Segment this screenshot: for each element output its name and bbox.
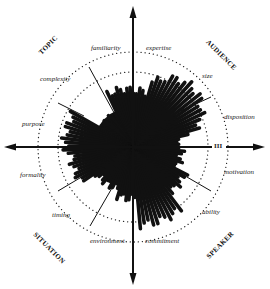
axis-marker-iii: III bbox=[214, 143, 222, 150]
label-motivation: motivation bbox=[224, 169, 254, 176]
label-commitment: commitment bbox=[145, 238, 179, 245]
label-complexity: complexity bbox=[40, 76, 70, 83]
label-familiarity: familiarity bbox=[91, 45, 121, 52]
label-environment: environment bbox=[90, 238, 125, 245]
label-size: size bbox=[202, 73, 213, 80]
label-expertise: expertise bbox=[146, 45, 171, 52]
arrow-left-icon bbox=[4, 144, 16, 151]
label-purpose: purpose bbox=[22, 121, 45, 128]
label-formality: formality bbox=[20, 172, 46, 179]
arrow-down-icon bbox=[130, 273, 137, 285]
divider-timing-environment bbox=[90, 188, 112, 226]
divider-purpose-complexity bbox=[58, 103, 84, 116]
label-disposition: disposition bbox=[224, 114, 255, 121]
label-timing: timing bbox=[52, 212, 70, 219]
arrow-right-icon bbox=[253, 144, 265, 151]
label-ability: ability bbox=[202, 209, 220, 216]
arrow-up-icon bbox=[130, 6, 137, 18]
